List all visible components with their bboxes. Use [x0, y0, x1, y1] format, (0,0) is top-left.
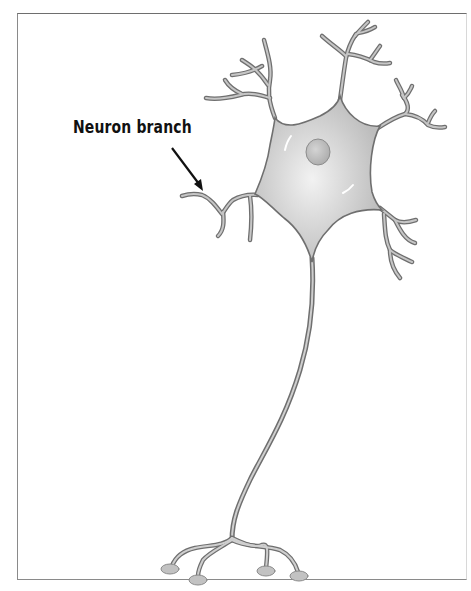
axon [232, 258, 313, 540]
neuron-illustration [0, 0, 471, 591]
synaptic-knobs [161, 564, 308, 585]
cell-body [255, 96, 382, 262]
axon-terminals [161, 538, 308, 585]
label-arrow [172, 148, 203, 191]
nucleus [306, 139, 330, 165]
